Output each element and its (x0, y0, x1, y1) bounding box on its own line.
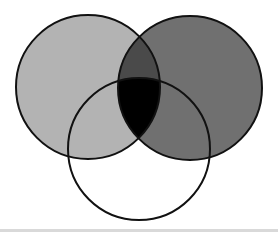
bottom-rule (0, 229, 278, 232)
venn-diagram (0, 0, 278, 232)
